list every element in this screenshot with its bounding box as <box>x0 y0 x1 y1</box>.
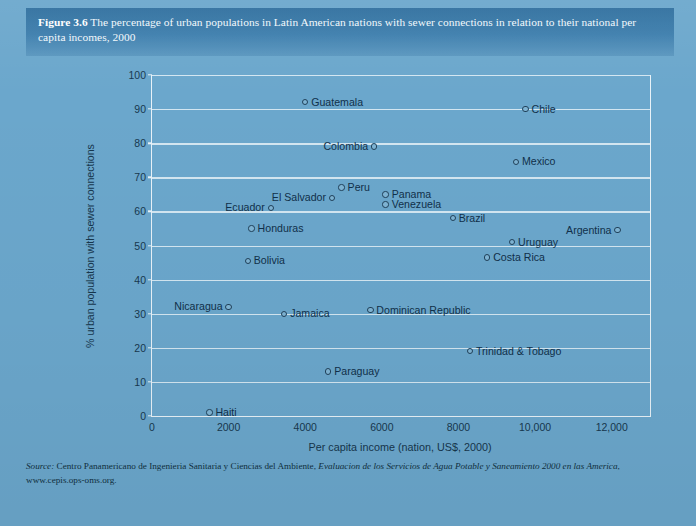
gridline-y <box>152 382 650 383</box>
y-tick-mark <box>148 211 152 212</box>
data-point <box>338 184 344 190</box>
data-point <box>302 99 308 105</box>
data-point-label: Haiti <box>215 406 236 418</box>
gridline-y <box>152 348 650 349</box>
y-tick-label: 100 <box>128 69 146 81</box>
source-italic-title: Evaluacion de los Servicios de Agua Pota… <box>318 461 617 471</box>
y-tick-mark <box>148 313 152 314</box>
data-point <box>325 368 331 374</box>
data-point-label: Venezuela <box>392 198 441 210</box>
gridline-y <box>152 280 650 281</box>
y-tick-mark <box>148 74 152 75</box>
data-point-label: Nicaragua <box>174 300 222 312</box>
gridline-y <box>152 109 650 110</box>
source-lead: Source: <box>26 461 54 471</box>
data-point-label: Trinidad & Tobago <box>476 345 561 357</box>
y-tick-label: 50 <box>134 240 146 252</box>
y-tick-label: 30 <box>134 308 146 320</box>
data-point <box>382 191 388 197</box>
data-point <box>467 348 473 354</box>
gridline-y <box>152 177 650 178</box>
data-point-label: Guatemala <box>311 96 363 108</box>
data-point <box>245 258 251 264</box>
y-tick-label: 60 <box>134 205 146 217</box>
data-point <box>281 311 287 317</box>
x-tick-label: 12,000 <box>596 421 628 433</box>
data-point <box>484 254 490 260</box>
data-point-label: El Salvador <box>272 191 326 203</box>
data-point-label: Peru <box>348 181 370 193</box>
data-point-label: Bolivia <box>254 254 285 266</box>
data-point-label: Brazil <box>459 212 486 224</box>
data-point <box>371 143 377 149</box>
x-tick-label: 8000 <box>447 421 470 433</box>
source-note: Source: Centro Panamericano de Ingenieri… <box>26 460 646 486</box>
gridline-y <box>152 143 650 144</box>
gridline-y <box>152 246 650 247</box>
source-tail: , <box>618 461 620 471</box>
y-tick-mark <box>148 347 152 348</box>
y-tick-mark <box>148 415 152 416</box>
data-point-label: Jamaica <box>290 307 329 319</box>
x-tick-label: 2000 <box>217 421 240 433</box>
data-point <box>513 159 519 165</box>
y-tick-mark <box>148 142 152 143</box>
y-tick-mark <box>148 381 152 382</box>
gridline-y <box>152 75 650 76</box>
source-body: Centro Panamericano de Ingenieria Sanita… <box>57 461 316 471</box>
data-point <box>248 225 254 231</box>
data-point-label: Argentina <box>566 224 611 236</box>
plot-area: 0102030405060708090100020004000600080001… <box>151 75 651 417</box>
data-point-label: Paraguay <box>334 365 379 377</box>
y-tick-label: 0 <box>140 410 146 422</box>
data-point-label: Uruguay <box>518 236 558 248</box>
figure-label: Figure 3.6 <box>38 16 88 28</box>
y-tick-label: 20 <box>134 342 146 354</box>
data-point-label: Honduras <box>258 222 304 234</box>
data-point-label: Ecuador <box>225 201 264 213</box>
data-point <box>225 304 231 310</box>
data-point-label: Costa Rica <box>493 251 545 263</box>
y-tick-mark <box>148 108 152 109</box>
x-tick-label: 10,000 <box>519 421 551 433</box>
source-url: www.cepis.ops-oms.org. <box>26 474 646 487</box>
data-point <box>614 227 620 233</box>
data-point-label: Chile <box>532 103 556 115</box>
data-point <box>329 195 335 201</box>
data-point <box>367 307 373 313</box>
y-tick-mark <box>148 177 152 178</box>
y-axis-title: % urban population with sewer connection… <box>84 144 96 348</box>
figure-caption: Figure 3.6 The percentage of urban popul… <box>38 15 660 44</box>
figure-caption-text: The percentage of urban populations in L… <box>38 16 636 43</box>
x-tick-label: 0 <box>149 421 155 433</box>
data-point-label: Colombia <box>323 140 368 152</box>
y-tick-label: 40 <box>134 274 146 286</box>
data-point <box>522 106 528 112</box>
y-tick-label: 80 <box>134 137 146 149</box>
data-point <box>206 409 212 415</box>
data-point <box>268 205 274 211</box>
data-point <box>450 215 456 221</box>
x-tick-label: 6000 <box>370 421 393 433</box>
figure-page: Figure 3.6 The percentage of urban popul… <box>0 0 696 526</box>
y-tick-label: 10 <box>134 376 146 388</box>
y-tick-mark <box>148 245 152 246</box>
data-point <box>509 239 515 245</box>
data-point-label: Dominican Republic <box>376 304 470 316</box>
data-point <box>382 201 388 207</box>
data-point-label: Mexico <box>522 155 556 167</box>
figure-caption-band: Figure 3.6 The percentage of urban popul… <box>26 8 674 56</box>
figure-inner-frame: Figure 3.6 The percentage of urban popul… <box>26 8 674 508</box>
y-tick-label: 90 <box>134 103 146 115</box>
x-tick-label: 4000 <box>294 421 317 433</box>
chart-container: % urban population with sewer connection… <box>26 56 674 508</box>
y-tick-mark <box>148 279 152 280</box>
y-tick-label: 70 <box>134 171 146 183</box>
x-axis-title: Per capita income (nation, US$, 2000) <box>151 441 649 453</box>
